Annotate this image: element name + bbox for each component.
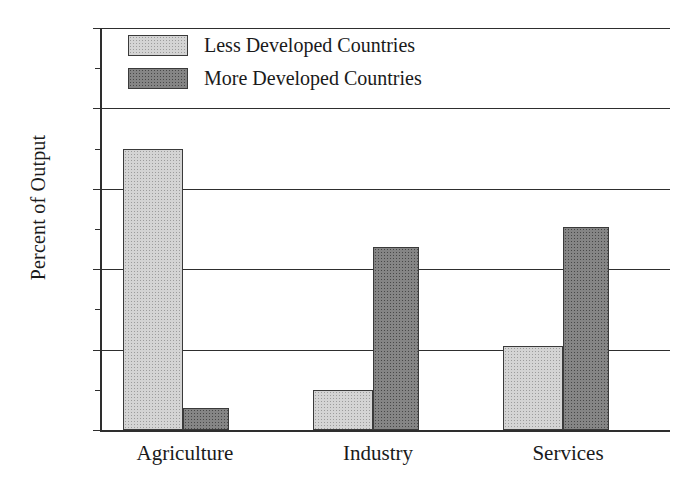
legend: Less Developed Countries More Developed …	[128, 30, 422, 96]
legend-swatch-light-gray	[128, 35, 188, 56]
legend-label-less-developed: Less Developed Countries	[204, 35, 415, 55]
gridline-0	[100, 430, 670, 432]
bar-services-more-developed	[563, 227, 609, 430]
gridline-100	[100, 28, 670, 29]
gridline-60	[100, 189, 670, 190]
bar-agriculture-more-developed	[183, 408, 229, 430]
legend-item-less-developed: Less Developed Countries	[128, 30, 422, 60]
x-tick-label-services: Services	[505, 441, 631, 466]
bar-chart: Percent of Output 100 80 60 40 20 0	[0, 0, 679, 492]
bar-industry-less-developed	[313, 390, 373, 430]
bar-industry-more-developed	[373, 247, 419, 430]
bar-services-less-developed	[503, 346, 563, 430]
legend-swatch-dark-gray	[128, 68, 188, 89]
legend-item-more-developed: More Developed Countries	[128, 63, 422, 93]
x-tick-label-agriculture: Agriculture	[120, 441, 250, 466]
gridline-80	[100, 108, 670, 109]
y-axis-title: Percent of Output	[27, 78, 50, 338]
bar-agriculture-less-developed	[123, 149, 183, 430]
x-tick-label-industry: Industry	[315, 441, 441, 466]
legend-label-more-developed: More Developed Countries	[204, 68, 422, 88]
